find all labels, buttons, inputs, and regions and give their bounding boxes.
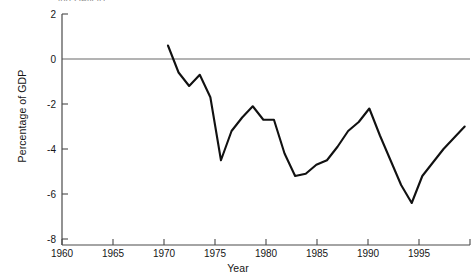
x-tick-label-4: 1980 bbox=[255, 248, 278, 259]
x-tick-label-7: 1995 bbox=[408, 248, 431, 259]
x-tick-label-5: 1985 bbox=[306, 248, 329, 259]
y-axis-tick-labels: 2 0 -2 -4 -6 -8 bbox=[47, 9, 56, 245]
y-tick-label-0: 2 bbox=[50, 9, 56, 20]
y-axis-title: Percentage of GDP bbox=[16, 51, 28, 181]
x-tick-label-0: 1960 bbox=[51, 248, 74, 259]
x-axis-ticks bbox=[62, 239, 470, 245]
y-tick-label-2: -2 bbox=[47, 99, 56, 110]
x-axis-title: Year bbox=[0, 262, 476, 274]
line-chart-plot: 2 0 -2 -4 -6 -8 1960 1965 1970 1975 1980 bbox=[0, 0, 476, 280]
y-axis-ticks bbox=[62, 14, 68, 239]
chart-figure: ing Deficit) 2 0 -2 -4 -6 -8 bbox=[0, 0, 476, 280]
x-axis-tick-labels: 1960 1965 1970 1975 1980 1985 1990 1995 bbox=[51, 248, 431, 259]
x-tick-label-1: 1965 bbox=[102, 248, 125, 259]
y-tick-label-4: -6 bbox=[47, 189, 56, 200]
deficit-series-line bbox=[168, 46, 465, 204]
x-tick-label-6: 1990 bbox=[357, 248, 380, 259]
y-tick-label-1: 0 bbox=[50, 54, 56, 65]
y-tick-label-3: -4 bbox=[47, 144, 56, 155]
y-tick-label-5: -8 bbox=[47, 234, 56, 245]
x-tick-label-3: 1975 bbox=[204, 248, 227, 259]
x-tick-label-2: 1970 bbox=[153, 248, 176, 259]
